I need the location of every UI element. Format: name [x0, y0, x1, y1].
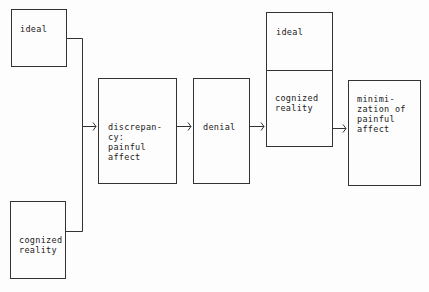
flow-diagram: ideal cognized reality discrepan- cy: pa… — [0, 0, 429, 292]
ideal-input-label: ideal — [20, 24, 47, 34]
ideal-combined-label: ideal — [276, 27, 303, 37]
minimization-label: minimi- zation of painful affect — [357, 94, 406, 134]
ideal-input-box — [12, 10, 67, 67]
cognized-reality-input-label: cognized reality — [19, 235, 62, 255]
diagram-lines — [0, 0, 429, 292]
cognized-reality-combined-label: cognized reality — [275, 93, 318, 113]
denial-label: denial — [203, 122, 236, 132]
connector-ideal — [66, 39, 83, 232]
discrepancy-label: discrepan- cy: painful affect — [108, 122, 162, 162]
